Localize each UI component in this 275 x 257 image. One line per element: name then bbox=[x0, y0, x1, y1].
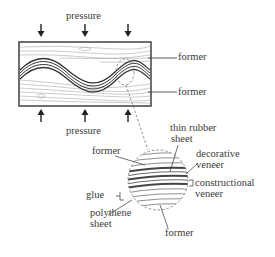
label-former-detail-top: former bbox=[92, 145, 121, 156]
former-block bbox=[19, 42, 151, 106]
label-constructional-veneer: constructional veneer bbox=[195, 177, 254, 199]
label-former-lower: former bbox=[178, 86, 207, 97]
label-former-detail-bottom: former bbox=[165, 227, 194, 238]
pressure-arrows-bottom bbox=[38, 109, 132, 122]
label-polythene-sheet: polythene sheet bbox=[90, 207, 131, 229]
label-pressure-top: pressure bbox=[66, 10, 101, 21]
pressure-arrows-top bbox=[38, 24, 132, 37]
laminating-press-diagram bbox=[0, 0, 275, 257]
magnified-detail bbox=[120, 150, 200, 210]
label-former-upper: former bbox=[178, 51, 207, 62]
label-thin-rubber-sheet: thin rubber sheet bbox=[170, 122, 216, 144]
label-glue: glue bbox=[86, 189, 104, 200]
label-decorative-veneer: decorative veneer bbox=[196, 148, 240, 170]
label-pressure-bottom: pressure bbox=[66, 125, 101, 136]
